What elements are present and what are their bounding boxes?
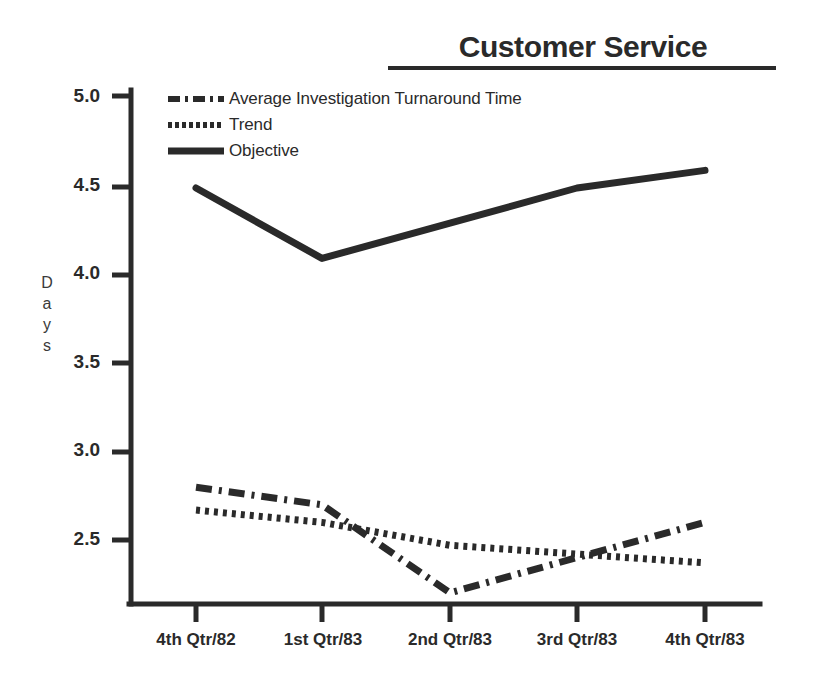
x-axis-ticks	[196, 604, 705, 622]
y-axis-ticks	[112, 96, 131, 540]
plot-area	[0, 0, 813, 684]
series-line-trend	[196, 510, 705, 563]
chart-container: Customer Service Average Investigation T…	[0, 0, 813, 684]
axis-lines	[129, 90, 760, 604]
series-line-average-investigation-turnaround-time	[196, 487, 705, 593]
series-line-objective	[196, 170, 705, 258]
